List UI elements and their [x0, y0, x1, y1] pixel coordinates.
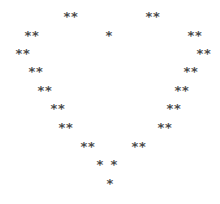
asterisk-glyph: **: [196, 47, 211, 60]
asterisk-glyph: **: [24, 29, 39, 42]
asterisk-glyph: **: [131, 140, 146, 153]
asterisk-glyph: **: [187, 29, 202, 42]
asterisk-glyph: **: [80, 140, 95, 153]
asterisk-glyph: *: [110, 158, 117, 171]
asterisk-glyph: **: [174, 84, 189, 97]
asterisk-glyph: **: [15, 47, 30, 60]
asterisk-glyph: **: [166, 102, 181, 115]
asterisk-glyph: **: [183, 65, 198, 78]
asterisk-glyph: *: [105, 29, 112, 42]
asterisk-glyph: *: [106, 177, 113, 190]
asterisk-glyph: **: [50, 102, 65, 115]
asterisk-glyph: **: [157, 121, 172, 134]
asterisk-glyph: **: [37, 84, 52, 97]
asterisk-glyph: **: [58, 121, 73, 134]
asterisk-glyph: *: [96, 158, 103, 171]
ascii-heart-canvas: ** ** ** * ** ** ** ** ** ** ** ** ** **…: [0, 0, 220, 204]
asterisk-glyph: **: [145, 10, 160, 23]
asterisk-glyph: **: [63, 10, 78, 23]
asterisk-glyph: **: [28, 65, 43, 78]
